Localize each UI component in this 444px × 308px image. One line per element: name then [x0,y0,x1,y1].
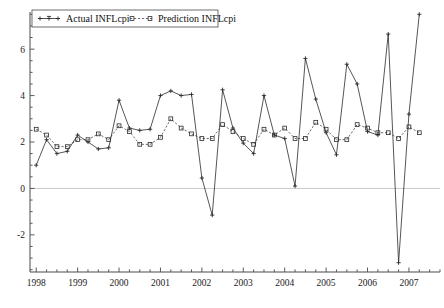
x-tick-label: 2004 [275,278,294,288]
x-tick-label: 2007 [399,278,418,288]
x-tick-label: 2003 [234,278,253,288]
x-tick-label: 2002 [192,278,211,288]
x-tick-label: 2000 [110,278,129,288]
y-tick-label: 2 [20,137,25,147]
x-tick-label: 2005 [317,278,336,288]
y-tick-label: 0 [20,184,25,194]
y-tick-label: -2 [17,230,25,240]
series-path [36,14,419,262]
chart-legend: Actual INFLcpiPrediction INFLcpi [32,10,236,27]
y-tick-label: 4 [20,91,25,101]
data-series [34,12,421,265]
series-actual [34,12,421,265]
legend-label-prediction: Prediction INFLcpi [158,13,236,24]
data-point-marker [76,138,80,142]
inflation-forecast-chart: -20246 199819992000200120022003200420052… [0,0,444,308]
y-axis: -20246 [17,12,34,272]
legend-label-actual: Actual INFLcpi [66,13,130,24]
x-tick-label: 2001 [151,278,170,288]
data-point-marker [417,131,421,135]
y-tick-label: 6 [20,45,25,55]
x-tick-label: 1999 [68,278,87,288]
data-point-marker [314,120,318,124]
x-tick-label: 1998 [27,278,46,288]
series-prediction [34,117,421,149]
chart-canvas: -20246 199819992000200120022003200420052… [0,0,444,308]
x-tick-label: 2006 [358,278,377,288]
series-path [36,119,419,147]
data-point-marker [190,132,194,136]
data-point-marker [241,137,245,141]
x-axis: 1998199920002001200220032004200520062007 [27,268,440,289]
